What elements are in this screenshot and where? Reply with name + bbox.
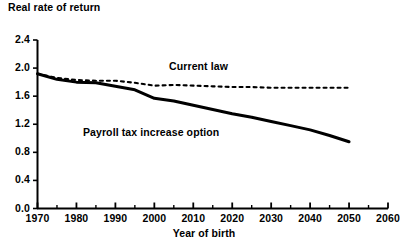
x-tick-label: 2040	[290, 212, 330, 224]
x-tick-label: 2000	[134, 212, 174, 224]
x-tick-label: 2060	[368, 212, 408, 224]
y-tick-label: 1.2	[2, 117, 30, 129]
x-tick-label: 2030	[251, 212, 291, 224]
chart-figure: Real rate of return 0.00.40.81.21.62.02.…	[0, 0, 408, 249]
series-label-current-law: Current law	[169, 60, 228, 72]
y-tick-label: 2.4	[2, 33, 30, 45]
series-label-payroll-tax-increase-option: Payroll tax increase option	[83, 126, 219, 138]
x-tick-label: 1980	[56, 212, 96, 224]
y-tick-label: 0.4	[2, 173, 30, 185]
x-axis-title: Year of birth	[0, 227, 408, 239]
y-tick-label: 1.6	[2, 89, 30, 101]
x-tick-label: 2010	[173, 212, 213, 224]
y-tick-label: 2.0	[2, 61, 30, 73]
x-tick-label: 1970	[18, 212, 58, 224]
x-tick-label: 2020	[212, 212, 252, 224]
series-line-current-law	[38, 74, 350, 88]
y-tick-label: 0.8	[2, 145, 30, 157]
x-tick-label: 1990	[95, 212, 135, 224]
x-tick-label: 2050	[329, 212, 369, 224]
